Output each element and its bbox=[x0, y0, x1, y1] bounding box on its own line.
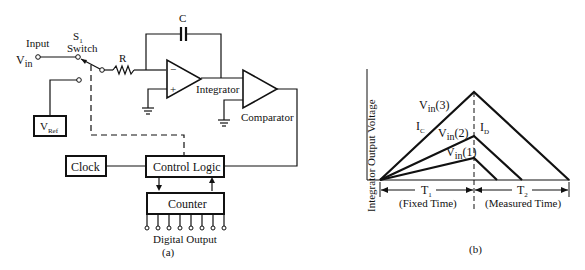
capacitor-label: C bbox=[179, 12, 186, 24]
caption-a: (a) bbox=[162, 246, 175, 259]
switch-contact-vref bbox=[77, 78, 82, 83]
arrow-right-icon bbox=[466, 187, 473, 193]
arrow-right-icon bbox=[561, 187, 568, 193]
digital-output-pins bbox=[145, 214, 226, 230]
label-id: ID bbox=[480, 120, 489, 136]
counter-label: Counter bbox=[168, 197, 207, 211]
comparator-icon bbox=[243, 70, 277, 108]
control-logic-label: Control Logic bbox=[153, 160, 221, 174]
resistor-label: R bbox=[119, 52, 127, 64]
switch-common-terminal bbox=[100, 68, 105, 73]
clock-label: Clock bbox=[71, 160, 100, 174]
t2-description: (Measured Time) bbox=[485, 197, 561, 210]
circuit-diagram: Input Vin S1 Switch R VRef C − + bbox=[16, 12, 297, 259]
arrow-left-icon bbox=[381, 187, 388, 193]
input-label: Input bbox=[26, 37, 49, 49]
comparator-label: Comparator bbox=[241, 111, 294, 123]
label-ic: IC bbox=[416, 119, 425, 135]
label-vin3: Vin(3) bbox=[419, 98, 449, 114]
digital-output-label: Digital Output bbox=[153, 233, 217, 245]
ground-icon bbox=[142, 108, 154, 114]
switch-contact-input bbox=[76, 55, 81, 60]
dual-slope-adc-figure: Input Vin S1 Switch R VRef C − + bbox=[0, 0, 585, 270]
opamp-plus: + bbox=[170, 83, 176, 95]
waveform-graph: Integrator Output Voltage Vin(3) IC Vin(… bbox=[365, 69, 570, 256]
label-vin2: Vin(2) bbox=[438, 126, 468, 142]
t1-description: (Fixed Time) bbox=[399, 197, 457, 210]
arrow-down-icon bbox=[156, 185, 162, 191]
curve-vin1 bbox=[380, 158, 497, 180]
input-terminal bbox=[36, 55, 41, 60]
caption-b: (b) bbox=[469, 243, 482, 256]
integrator-label: Integrator bbox=[196, 83, 240, 95]
label-vin1: Vin(1) bbox=[446, 145, 476, 161]
vin-label: Vin bbox=[16, 53, 32, 69]
switch-arrow-icon bbox=[81, 59, 87, 64]
opamp-minus: − bbox=[170, 63, 176, 75]
resistor-icon bbox=[113, 66, 134, 74]
switch-label: Switch bbox=[67, 42, 98, 54]
ground-icon bbox=[218, 120, 230, 126]
